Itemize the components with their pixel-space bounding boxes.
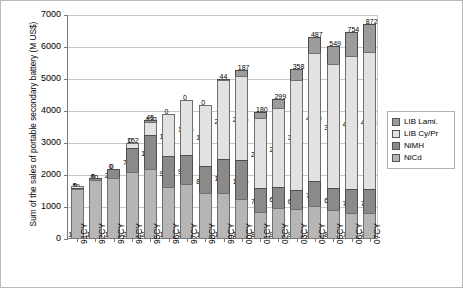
legend-item-nicd[interactable]: NiCd — [392, 152, 451, 164]
bar-segment-nimh — [345, 189, 358, 213]
bar-segment-lib-lami- — [345, 32, 358, 56]
x-axis-label-06CY: 06CY — [355, 223, 363, 244]
x-axis-label-91CY: 91CY — [80, 223, 88, 244]
bar-segment-lib-cy-pr — [272, 108, 285, 187]
bar-segment-nimh — [144, 135, 157, 168]
x-axis-tick — [224, 238, 225, 242]
x-axis-tick — [260, 238, 261, 242]
bar-segment-nimh — [180, 155, 193, 184]
y-axis-tick — [64, 111, 68, 112]
y-axis-tick — [64, 143, 68, 144]
y-axis-tick-label: 3000 — [21, 138, 61, 147]
bar-segment-lib-cy-pr — [327, 64, 340, 188]
bar-segment-lib-cy-pr — [308, 53, 321, 182]
bar-segment-nimh — [363, 189, 376, 213]
bar-segment-nimh — [217, 159, 230, 193]
bar-00CY[interactable] — [235, 70, 248, 238]
bar-04CY[interactable] — [308, 37, 321, 238]
x-axis-tick — [315, 238, 316, 242]
bar-segment-nimh — [308, 181, 321, 206]
x-axis-tick — [114, 238, 115, 242]
x-axis-label-05CY: 05CY — [336, 223, 344, 244]
legend-swatch-icon — [392, 130, 400, 138]
legend-label: LIB Lami. — [404, 118, 438, 126]
bar-03CY[interactable] — [290, 69, 303, 238]
y-axis-title: Sum of the sales of portable secondary b… — [28, 0, 38, 249]
plot-area: 1535391018231000188326100206074615202171… — [67, 15, 378, 239]
bar-segment-lib-cy-pr — [235, 76, 248, 159]
y-axis-tick — [64, 15, 68, 16]
bar-segment-lib-cy-pr — [162, 114, 175, 155]
x-axis-tick — [169, 238, 170, 242]
x-axis-label-95CY: 95CY — [153, 223, 161, 244]
bar-97CY[interactable] — [180, 100, 193, 238]
bar-segment-nimh — [272, 187, 285, 208]
legend-item-lib-lami-[interactable]: LIB Lami. — [392, 116, 451, 128]
bar-segment-nimh — [327, 188, 340, 210]
y-axis-tick-label: 4000 — [21, 106, 61, 115]
legend-swatch-icon — [392, 154, 400, 162]
chart-legend: LIB Lami.LIB Cy/PrNiMHNiCd — [387, 111, 455, 169]
x-axis-tick — [77, 238, 78, 242]
bar-segment-lib-lami- — [363, 24, 376, 52]
bar-96CY[interactable] — [162, 114, 175, 238]
bar-99CY[interactable] — [217, 79, 230, 238]
bar-segment-nimh — [162, 156, 175, 187]
x-axis-label-01CY: 01CY — [263, 223, 271, 244]
bar-02CY[interactable] — [272, 99, 285, 238]
bar-segment-lib-cy-pr — [363, 52, 376, 189]
x-axis-label-92CY: 92CY — [98, 223, 106, 244]
bar-segment-nimh — [235, 160, 248, 200]
bar-segment-nimh — [254, 188, 267, 213]
bar-segment-lib-cy-pr — [254, 118, 267, 188]
x-axis-label-96CY: 96CY — [172, 223, 180, 244]
bar-segment-nimh — [107, 169, 120, 177]
bar-98CY[interactable] — [199, 105, 212, 238]
y-axis-tick-label: 7000 — [21, 10, 61, 19]
y-axis-tick — [64, 239, 68, 240]
y-axis-tick — [64, 207, 68, 208]
y-axis-tick-label: 5000 — [21, 74, 61, 83]
y-axis-tick-label: 2000 — [21, 170, 61, 179]
y-axis-tick — [64, 79, 68, 80]
bar-01CY[interactable] — [254, 112, 267, 238]
bar-segment-nimh — [290, 190, 303, 209]
bar-segment-nimh — [126, 148, 139, 172]
bar-segment-lib-cy-pr — [345, 56, 358, 189]
bar-06CY[interactable] — [345, 32, 358, 238]
bar-segment-lib-cy-pr — [180, 100, 193, 155]
legend-swatch-icon — [392, 142, 400, 150]
x-axis-label-99CY: 99CY — [227, 223, 235, 244]
legend-swatch-icon — [392, 118, 400, 126]
bar-segment-lib-cy-pr — [144, 122, 157, 136]
x-axis-label-07CY: 07CY — [373, 223, 381, 244]
legend-label: NiCd — [404, 154, 422, 162]
x-axis-label-97CY: 97CY — [190, 223, 198, 244]
x-axis-tick — [352, 238, 353, 242]
gridline — [68, 15, 377, 16]
bar-segment-lib-lami- — [308, 37, 321, 53]
x-axis-label-03CY: 03CY — [300, 223, 308, 244]
legend-label: LIB Cy/Pr — [404, 130, 438, 138]
x-axis-label-04CY: 04CY — [318, 223, 326, 244]
bar-07CY[interactable] — [363, 24, 376, 238]
legend-item-nimh[interactable]: NiMH — [392, 140, 451, 152]
y-axis-tick-label: 1000 — [21, 202, 61, 211]
x-axis-label-93CY: 93CY — [117, 223, 125, 244]
bar-segment-lib-lami- — [327, 46, 340, 64]
chart-container: Sum of the sales of portable secondary b… — [0, 0, 463, 288]
bar-segment-lib-lami- — [290, 69, 303, 80]
x-axis-label-00CY: 00CY — [245, 223, 253, 244]
bar-segment-lib-cy-pr — [290, 80, 303, 190]
y-axis-tick-label: 0 — [21, 234, 61, 243]
bar-95CY[interactable] — [144, 120, 157, 238]
x-axis-tick — [242, 238, 243, 242]
y-axis-tick — [64, 175, 68, 176]
bar-segment-nimh — [199, 166, 212, 193]
x-axis-label-94CY: 94CY — [135, 223, 143, 244]
y-axis-tick — [64, 47, 68, 48]
x-axis-tick — [132, 238, 133, 242]
bar-05CY[interactable] — [327, 46, 340, 238]
legend-item-lib-cy-pr[interactable]: LIB Cy/Pr — [392, 128, 451, 140]
bar-segment-lib-cy-pr — [217, 80, 230, 159]
